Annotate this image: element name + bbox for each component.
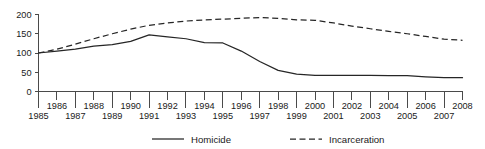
- legend-label-incarceration: Incarceration: [329, 134, 384, 145]
- y-tick-label: 50: [21, 68, 31, 78]
- x-tick-label: 1991: [139, 111, 159, 121]
- line-chart: 050100150200 198519861987198819891990199…: [0, 0, 485, 149]
- x-tick-label: 1993: [176, 111, 196, 121]
- chart-figure: 050100150200 198519861987198819891990199…: [0, 0, 485, 149]
- x-tick-label: 1998: [268, 101, 288, 111]
- legend-label-homicide: Homicide: [191, 134, 231, 145]
- x-tick-label: 2002: [342, 101, 362, 111]
- x-tick-label: 2000: [305, 101, 325, 111]
- chart-legend: HomicideIncarceration: [152, 134, 384, 145]
- x-tick-label: 2003: [360, 111, 380, 121]
- chart-series-group: [39, 18, 463, 78]
- x-tick-label: 1995: [213, 111, 233, 121]
- x-tick-label: 1986: [47, 101, 67, 111]
- x-tick-label: 2008: [452, 101, 472, 111]
- x-tick-label: 2006: [415, 101, 435, 111]
- x-tick-label: 1992: [157, 101, 177, 111]
- x-tick-label: 2004: [379, 101, 399, 111]
- x-tick-label: 1994: [194, 101, 214, 111]
- x-tick-label: 2005: [397, 111, 417, 121]
- series-line-homicide: [39, 35, 463, 78]
- x-tick-label: 1997: [249, 111, 269, 121]
- x-tick-label: 1987: [65, 111, 85, 121]
- x-tick-label: 1989: [102, 111, 122, 121]
- series-line-incarceration: [39, 18, 463, 53]
- x-tick-label: 1996: [231, 101, 251, 111]
- x-tick-label: 1985: [28, 111, 48, 121]
- x-axis: 1985198619871988198919901991199219931994…: [28, 92, 472, 122]
- y-tick-label: 0: [26, 87, 31, 97]
- x-tick-label: 1999: [286, 111, 306, 121]
- y-tick-label: 100: [16, 48, 31, 58]
- x-tick-label: 2001: [323, 111, 343, 121]
- x-tick-label: 2007: [434, 111, 454, 121]
- y-axis: 050100150200: [16, 10, 38, 97]
- x-tick-label: 1990: [120, 101, 140, 111]
- y-tick-label: 150: [16, 29, 31, 39]
- y-tick-label: 200: [16, 10, 31, 20]
- x-tick-label: 1988: [84, 101, 104, 111]
